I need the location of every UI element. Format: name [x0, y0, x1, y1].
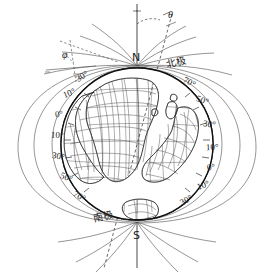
theta-angle-label: θ — [168, 10, 173, 20]
degree-label-left-3: 10° — [51, 131, 64, 141]
magnetic-field-figure: N S θ φ 北极 南极 30° 10° 0° 10° 30° 50° 70°… — [0, 0, 274, 279]
south-axis-label: S — [133, 230, 140, 241]
degree-label-right-3: 10° — [206, 143, 219, 152]
phi-angle-label: φ — [62, 50, 68, 60]
degree-label-left-2: 0° — [54, 109, 63, 119]
degree-label-right-4: 0° — [206, 162, 216, 172]
north-axis-label: N — [132, 52, 140, 63]
degree-label-right-2: 30° — [202, 119, 216, 130]
